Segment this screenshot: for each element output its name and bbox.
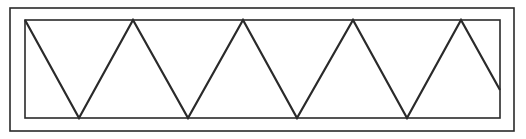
outer-frame <box>10 8 514 131</box>
zigzag-diagram <box>0 0 526 139</box>
zigzag-line <box>25 20 500 118</box>
inner-frame <box>25 20 500 118</box>
diagram-canvas <box>0 0 526 139</box>
